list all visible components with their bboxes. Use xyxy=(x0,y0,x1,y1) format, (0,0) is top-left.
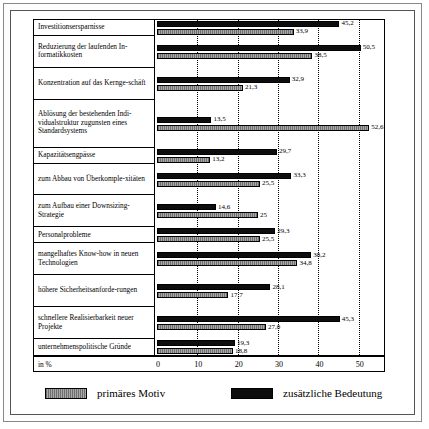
category-label-text: höhere Sicherheitsanforde-rungen xyxy=(38,286,137,295)
bar-dark-9-value: 28,1 xyxy=(272,284,284,291)
chart-legend: primäres Motivzusätzliche Bedeutung xyxy=(33,386,393,404)
category-label-7: Personalprobleme xyxy=(34,227,154,243)
bar-light-1 xyxy=(157,53,312,59)
legend-swatch-dark xyxy=(231,388,273,399)
x-tick-0: 0 xyxy=(156,360,160,369)
bar-light-1-value: 38,5 xyxy=(314,52,326,59)
bar-light-0 xyxy=(157,29,294,35)
bar-dark-6-value: 14,6 xyxy=(218,204,230,211)
legend-label-0: primäres Motiv xyxy=(97,387,165,399)
category-label-text: Personalprobleme xyxy=(38,231,91,240)
bar-light-7-value: 25,5 xyxy=(262,236,274,243)
bar-dark-2-value: 32,9 xyxy=(292,76,304,83)
bar-dark-5 xyxy=(157,173,291,179)
bar-dark-2 xyxy=(157,77,290,83)
category-label-8: mangelhaftes Know-how in neuen Technolog… xyxy=(34,243,154,275)
gridline-50 xyxy=(359,20,360,355)
bar-dark-4-value: 29,7 xyxy=(279,148,291,155)
category-label-0: Investitionsersparnisse xyxy=(34,20,154,36)
bar-dark-7 xyxy=(157,228,275,234)
bar-dark-5-value: 33,3 xyxy=(293,172,305,179)
bar-dark-3 xyxy=(157,117,211,123)
x-tick-30: 30 xyxy=(275,360,283,369)
category-label-text: mangelhaftes Know-how in neuen Technolog… xyxy=(38,250,152,267)
figure-outer-frame: InvestitionsersparnisseReduzierung der l… xyxy=(3,3,422,422)
bar-light-4 xyxy=(157,157,210,163)
bar-dark-0 xyxy=(157,21,339,27)
bar-light-9-value: 17,7 xyxy=(230,292,242,299)
x-axis: in % 01020304050 xyxy=(33,356,385,372)
gridline-30 xyxy=(278,20,279,355)
bar-light-0-value: 33,9 xyxy=(296,28,308,35)
category-label-text: zum Abbau von Überkomple-xitäten xyxy=(38,175,145,184)
category-label-text: Ablösung der bestehenden Indi-vidualstru… xyxy=(38,110,152,136)
category-label-text: Kapazitätsengpässe xyxy=(38,151,95,160)
bar-dark-0-value: 45,2 xyxy=(341,20,353,27)
category-label-2: Konzentration auf das Kernge-schäft xyxy=(34,68,154,100)
gridline-10 xyxy=(197,20,198,355)
bar-dark-8-value: 38,2 xyxy=(313,252,325,259)
bar-light-11 xyxy=(157,348,233,354)
category-label-1: Reduzierung der laufenden In-formatikkos… xyxy=(34,36,154,68)
bar-light-8 xyxy=(157,260,297,266)
bar-dark-8 xyxy=(157,252,311,258)
bar-dark-3-value: 13,5 xyxy=(213,116,225,123)
category-label-text: Reduzierung der laufenden In-formatikkos… xyxy=(38,43,152,60)
category-label-text: zum Aufbau einer Downsizing-Strategie xyxy=(38,202,152,219)
bar-light-2-value: 21,3 xyxy=(245,84,257,91)
bar-dark-1 xyxy=(157,45,361,51)
bar-light-6 xyxy=(157,212,258,218)
category-label-11: unternehmenspolitische Gründe xyxy=(34,339,154,355)
bar-dark-6 xyxy=(157,204,216,210)
bar-dark-11 xyxy=(157,340,235,346)
bar-light-11-value: 18,8 xyxy=(235,348,247,355)
bar-light-9 xyxy=(157,292,228,298)
category-label-text: Konzentration auf das Kernge-schäft xyxy=(38,79,146,88)
legend-label-1: zusätzliche Bedeutung xyxy=(283,387,382,399)
bar-light-6-value: 25 xyxy=(260,212,267,219)
category-label-column: InvestitionsersparnisseReduzierung der l… xyxy=(33,19,155,356)
bar-light-5-value: 25,5 xyxy=(262,180,274,187)
bar-light-3 xyxy=(157,125,369,131)
bar-light-5 xyxy=(157,181,260,187)
x-tick-40: 40 xyxy=(315,360,323,369)
category-label-text: schnellere Realisierbarkeit neuer Projek… xyxy=(38,314,152,331)
x-tick-20: 20 xyxy=(235,360,243,369)
bar-light-3-value: 52,6 xyxy=(371,124,383,131)
bar-dark-7-value: 29,3 xyxy=(277,228,289,235)
bar-plot-column: 45,233,950,538,532,921,313,552,629,713,2… xyxy=(155,19,385,356)
bar-light-10 xyxy=(157,324,266,330)
category-label-9: höhere Sicherheitsanforde-rungen xyxy=(34,275,154,307)
category-label-text: unternehmenspolitische Gründe xyxy=(38,343,131,352)
category-label-10: schnellere Realisierbarkeit neuer Projek… xyxy=(34,307,154,339)
legend-swatch-light xyxy=(45,388,87,399)
bar-light-10-value: 27,0 xyxy=(268,324,280,331)
category-label-6: zum Aufbau einer Downsizing-Strategie xyxy=(34,195,154,227)
x-tick-50: 50 xyxy=(356,360,364,369)
category-label-4: Kapazitätsengpässe xyxy=(34,148,154,164)
bar-dark-10-value: 45,3 xyxy=(342,316,354,323)
x-tick-10: 10 xyxy=(194,360,202,369)
figure-inner-frame: InvestitionsersparnisseReduzierung der l… xyxy=(10,10,415,415)
bar-light-7 xyxy=(157,236,260,242)
category-label-5: zum Abbau von Überkomple-xitäten xyxy=(34,164,154,196)
bar-light-4-value: 13,2 xyxy=(212,156,224,163)
bar-dark-9 xyxy=(157,284,270,290)
bar-dark-11-value: 19,3 xyxy=(237,340,249,347)
bar-light-2 xyxy=(157,85,243,91)
chart-plot-area: InvestitionsersparnisseReduzierung der l… xyxy=(33,19,385,364)
bar-dark-10 xyxy=(157,316,340,322)
x-axis-unit-label: in % xyxy=(38,360,52,369)
category-label-3: Ablösung der bestehenden Indi-vidualstru… xyxy=(34,100,154,148)
category-label-text: Investitionsersparnisse xyxy=(38,23,104,32)
bar-light-8-value: 34,8 xyxy=(299,260,311,267)
gridline-40 xyxy=(318,20,319,355)
bar-dark-4 xyxy=(157,149,277,155)
bar-dark-1-value: 50,5 xyxy=(363,44,375,51)
gridline-20 xyxy=(238,20,239,355)
